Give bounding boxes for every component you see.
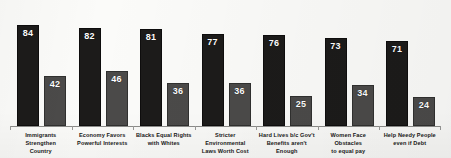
bar-value-secondary: 25 — [290, 99, 312, 109]
axis-tick — [195, 126, 196, 130]
category-label-line: Immigrants Strengthen — [10, 131, 72, 147]
bar-group: 77 36 — [195, 6, 257, 126]
bar-primary[interactable]: 76 — [263, 35, 285, 126]
category-label-line: Help Needy People — [379, 131, 441, 139]
bar-value-secondary: 34 — [352, 88, 374, 98]
bar-group-bars: 81 36 — [133, 6, 195, 126]
bar-group: 73 34 — [318, 6, 380, 126]
category-label-line: Women Face Obstacles — [318, 131, 380, 147]
axis-tick — [379, 126, 380, 130]
axis-tick — [318, 126, 319, 130]
bar-group-bars: 71 24 — [379, 6, 441, 126]
bar-group-bars: 84 42 — [10, 6, 72, 126]
bar-secondary[interactable]: 36 — [229, 83, 251, 126]
bar-secondary[interactable]: 34 — [352, 85, 374, 126]
category-label-line: to equal pay — [318, 147, 380, 155]
axis-tick — [133, 126, 134, 130]
bar-primary[interactable]: 82 — [79, 28, 101, 126]
bar-group: 71 24 — [379, 6, 441, 126]
category-label: Stricter Environmental Laws Worth Cost — [195, 131, 257, 156]
bar-value-secondary: 24 — [413, 100, 435, 110]
bar-value-secondary: 36 — [229, 86, 251, 96]
bar-secondary[interactable]: 36 — [167, 83, 189, 126]
bar-primary[interactable]: 71 — [386, 41, 408, 126]
bar-value-primary: 81 — [140, 32, 162, 42]
bar-chart: 84 42 82 46 81 — [0, 0, 451, 158]
bar-group-bars: 82 46 — [72, 6, 134, 126]
category-label: Economy Favors Powerful Interests — [72, 131, 134, 147]
bar-group-bars: 76 25 — [256, 6, 318, 126]
category-label-line: Benefits aren't Enough — [256, 139, 318, 155]
category-label-line: Powerful Interests — [72, 139, 134, 147]
bar-value-primary: 84 — [17, 28, 39, 38]
axis-tick — [72, 126, 73, 130]
category-label: Help Needy People even if Debt — [379, 131, 441, 147]
bar-secondary[interactable]: 24 — [413, 97, 435, 126]
bar-group-bars: 73 34 — [318, 6, 380, 126]
bar-secondary[interactable]: 42 — [44, 76, 66, 126]
category-label-line: Blacks Equal Rights — [133, 131, 195, 139]
category-label: Blacks Equal Rights with Whites — [133, 131, 195, 147]
bar-group: 81 36 — [133, 6, 195, 126]
bar-value-primary: 76 — [263, 38, 285, 48]
bar-secondary[interactable]: 46 — [106, 71, 128, 126]
bar-group: 84 42 — [10, 6, 72, 126]
category-label: Hard Lives b/c Gov't Benefits aren't Eno… — [256, 131, 318, 156]
category-label: Immigrants Strengthen Country — [10, 131, 72, 156]
category-label-line: with Whites — [133, 139, 195, 147]
bar-group: 82 46 — [72, 6, 134, 126]
category-label-line: Laws Worth Cost — [195, 147, 257, 155]
bar-primary[interactable]: 77 — [202, 34, 224, 126]
axis-tick — [440, 126, 441, 130]
bar-value-secondary: 36 — [167, 86, 189, 96]
category-label-line: Stricter Environmental — [195, 131, 257, 147]
bar-value-primary: 73 — [325, 41, 347, 51]
category-label-line: Hard Lives b/c Gov't — [256, 131, 318, 139]
x-axis-line — [10, 126, 441, 127]
bar-value-primary: 71 — [386, 44, 408, 54]
bar-primary[interactable]: 84 — [17, 25, 39, 126]
category-label: Women Face Obstacles to equal pay — [318, 131, 380, 156]
axis-tick — [256, 126, 257, 130]
bar-group-bars: 77 36 — [195, 6, 257, 126]
bar-primary[interactable]: 73 — [325, 38, 347, 126]
bar-secondary[interactable]: 25 — [290, 96, 312, 126]
bar-primary[interactable]: 81 — [140, 29, 162, 126]
bar-group: 76 25 — [256, 6, 318, 126]
bar-value-secondary: 42 — [44, 79, 66, 89]
plot-area: 84 42 82 46 81 — [10, 6, 441, 126]
bar-value-primary: 82 — [79, 31, 101, 41]
category-axis-labels: Immigrants Strengthen Country Economy Fa… — [10, 131, 441, 157]
bar-value-secondary: 46 — [106, 74, 128, 84]
category-label-line: Economy Favors — [72, 131, 134, 139]
category-label-line: even if Debt — [379, 139, 441, 147]
axis-tick — [10, 126, 11, 130]
bar-value-primary: 77 — [202, 37, 224, 47]
category-label-line: Country — [10, 147, 72, 155]
